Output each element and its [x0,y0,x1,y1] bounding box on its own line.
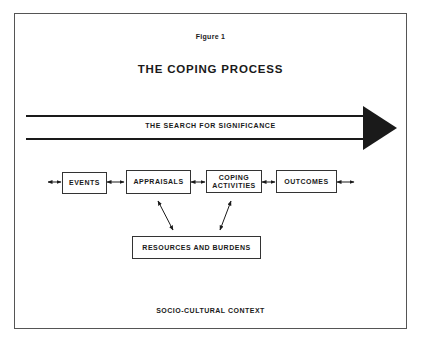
box-appraisals: APPRAISALS [126,170,191,194]
box-resources-label: RESOURCES AND BURDENS [142,244,250,252]
connector-appraisals-resources [158,201,173,230]
box-coping-activities: COPING ACTIVITIES [206,170,262,193]
context-label: SOCIO-CULTURAL CONTEXT [0,307,421,314]
box-resources-burdens: RESOURCES AND BURDENS [132,236,261,259]
box-outcomes: OUTCOMES [276,170,337,193]
banner-label: THE SEARCH FOR SIGNIFICANCE [0,122,421,129]
box-events: EVENTS [62,172,107,194]
box-coping-label-2: ACTIVITIES [212,182,256,190]
box-outcomes-label: OUTCOMES [284,178,328,186]
connector-coping-resources [220,201,231,230]
box-appraisals-label: APPRAISALS [133,178,183,186]
box-coping-label-1: COPING [219,174,250,182]
box-events-label: EVENTS [69,179,100,187]
